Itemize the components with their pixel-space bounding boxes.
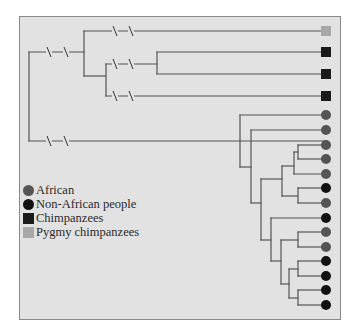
leaf-chimpanzee-icon xyxy=(321,69,331,79)
legend-swatch-icon xyxy=(23,185,34,196)
legend-label: Pygmy chimpanzees xyxy=(36,225,139,239)
leaf-chimpanzee-icon xyxy=(321,47,331,57)
leaf-african-icon xyxy=(321,154,331,164)
legend-item-non-african: Non-African people xyxy=(23,197,139,211)
legend: African Non-African people Chimpanzees P… xyxy=(23,183,139,239)
leaf-african-icon xyxy=(321,125,331,135)
leaf-african-icon xyxy=(321,169,331,179)
leaf-african-icon xyxy=(321,198,331,208)
leaf-chimpanzee-icon xyxy=(321,91,331,101)
leaf-non-african-icon xyxy=(321,285,331,295)
legend-swatch-icon xyxy=(23,213,34,224)
legend-label: African xyxy=(36,183,74,197)
leaf-african-icon xyxy=(321,227,331,237)
leaf-african-icon xyxy=(321,242,331,252)
leaf-african-icon xyxy=(321,140,331,150)
leaf-non-african-icon xyxy=(321,256,331,266)
leaf-pygmy-chimpanzee-icon xyxy=(321,26,331,36)
leaf-non-african-icon xyxy=(321,183,331,193)
legend-item-african: African xyxy=(23,183,139,197)
legend-label: Chimpanzees xyxy=(36,211,103,225)
legend-swatch-icon xyxy=(23,227,34,238)
legend-item-chimpanzees: Chimpanzees xyxy=(23,211,139,225)
legend-swatch-icon xyxy=(23,199,34,210)
legend-label: Non-African people xyxy=(36,197,136,211)
legend-item-pygmy-chimpanzees: Pygmy chimpanzees xyxy=(23,225,139,239)
leaf-african-icon xyxy=(321,110,331,120)
phylogenetic-tree xyxy=(0,0,356,334)
leaf-non-african-icon xyxy=(321,300,331,310)
leaf-non-african-icon xyxy=(321,213,331,223)
leaf-non-african-icon xyxy=(321,271,331,281)
